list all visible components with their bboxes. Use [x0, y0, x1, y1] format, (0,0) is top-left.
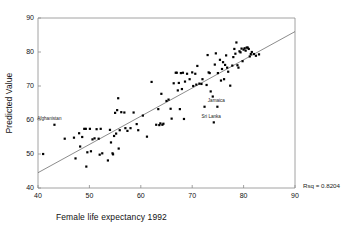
data-point [177, 89, 179, 91]
data-point [89, 128, 91, 130]
data-point [255, 55, 257, 57]
data-point [225, 54, 227, 56]
data-point [123, 111, 125, 113]
data-point [113, 135, 115, 137]
data-point [201, 78, 203, 80]
data-point [213, 121, 215, 123]
y-tick-label: 90 [22, 14, 34, 21]
data-point [195, 84, 197, 86]
data-point [253, 53, 255, 55]
data-point [222, 61, 224, 63]
data-point [109, 129, 111, 131]
data-point [95, 128, 97, 130]
data-point [239, 51, 241, 53]
plot-canvas: AfghanistanJamaicaSri Lanka [0, 0, 359, 236]
x-tick-label: 60 [133, 192, 149, 199]
annotation-label: Jamaica [208, 98, 226, 103]
data-point [186, 73, 188, 75]
x-tick-label: 70 [184, 192, 200, 199]
data-point [171, 118, 173, 120]
data-point [237, 67, 239, 69]
data-point [99, 154, 101, 156]
data-point [216, 106, 218, 108]
data-point [189, 78, 191, 80]
data-point [93, 137, 95, 139]
data-point [209, 72, 211, 74]
data-point [86, 151, 88, 153]
data-point [181, 88, 183, 90]
data-point [183, 118, 185, 120]
data-point [176, 72, 178, 74]
data-point [98, 138, 100, 140]
data-point [214, 63, 216, 65]
data-point [182, 72, 184, 74]
data-point [235, 41, 237, 43]
data-point [245, 50, 247, 52]
data-point [64, 138, 66, 140]
y-tick-label: 50 [22, 150, 34, 157]
data-point [133, 111, 135, 113]
y-tick-label: 40 [22, 184, 34, 191]
data-point [173, 82, 175, 84]
data-point [85, 165, 87, 167]
data-point [118, 147, 120, 149]
data-point [244, 47, 246, 49]
y-tick-label: 60 [22, 116, 34, 123]
x-tick-label: 80 [236, 192, 252, 199]
data-point [137, 129, 139, 131]
data-point [236, 64, 238, 66]
data-point [90, 150, 92, 152]
regression-line [38, 32, 295, 173]
x-axis-title: Female life expectancy 1992 [56, 212, 167, 222]
data-point [205, 84, 207, 86]
data-point [184, 80, 186, 82]
data-point [73, 137, 75, 139]
data-point [233, 48, 235, 50]
data-point [219, 59, 221, 61]
data-point [136, 123, 138, 125]
data-point [223, 78, 225, 80]
axis-ticks [38, 18, 295, 188]
annotation-label: Sri Lanka [202, 114, 222, 119]
data-point [155, 124, 157, 126]
y-tick-label: 80 [22, 48, 34, 55]
data-point [178, 82, 180, 84]
data-point [227, 71, 229, 73]
data-point [74, 157, 76, 159]
data-point [157, 108, 159, 110]
data-point [180, 72, 182, 74]
data-point [146, 136, 148, 138]
data-point [221, 68, 223, 70]
data-point [116, 109, 118, 111]
data-point [241, 60, 243, 62]
plot-frame [38, 18, 295, 188]
data-point [192, 85, 194, 87]
x-tick-label: 90 [287, 192, 303, 199]
data-point [53, 124, 55, 126]
data-point [250, 53, 252, 55]
data-point [150, 81, 152, 83]
data-point [234, 53, 236, 55]
data-point [85, 128, 87, 130]
data-point [91, 138, 93, 140]
data-point [110, 141, 112, 143]
data-point [107, 159, 109, 161]
y-tick-label: 70 [22, 82, 34, 89]
point-annotations: AfghanistanJamaicaSri Lanka [37, 98, 225, 121]
data-point [126, 130, 128, 132]
data-point [258, 53, 260, 55]
annotation-label: Afghanistan [37, 116, 62, 121]
data-point [249, 55, 251, 57]
data-point [119, 129, 121, 131]
data-point [194, 73, 196, 75]
data-point [179, 108, 181, 110]
scatter-plot-figure: Predicted Value Female life expectancy 1… [0, 0, 359, 236]
data-point [167, 99, 169, 101]
data-point [117, 97, 119, 99]
data-point [251, 51, 253, 53]
data-point [42, 153, 44, 155]
data-point [229, 85, 231, 87]
data-point [220, 79, 222, 81]
rsq-annotation: Rsq = 0.8204 [303, 182, 340, 189]
data-point [215, 52, 217, 54]
